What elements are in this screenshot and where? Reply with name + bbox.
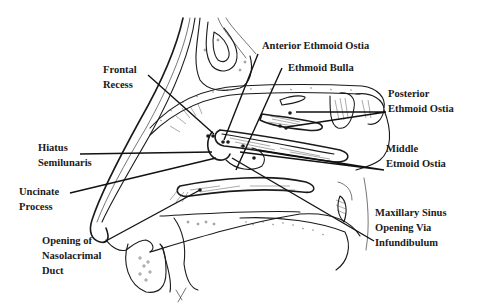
- label-uncinate-process: Uncinate Process: [19, 184, 59, 214]
- label-maxillary-sinus-opening: Maxillary Sinus Opening Via Infundibulum: [375, 205, 446, 250]
- superior-turbinate: [280, 96, 305, 105]
- alveolar-bone: [126, 218, 215, 302]
- sphenoid-region: [330, 93, 390, 170]
- maxillary-ostium: [336, 178, 368, 250]
- leader-hiatus-semilunaris: [80, 152, 212, 154]
- middle-turbinate: [260, 114, 322, 131]
- leader-nasolacrimal-duct: [104, 190, 200, 242]
- label-frontal-recess: Frontal Recess: [103, 62, 137, 92]
- inferior-turbinate: [177, 130, 348, 196]
- nasal-bone-outline: [90, 18, 195, 252]
- label-anterior-ethmoid-ostia: Anterior Ethmoid Ostia: [262, 38, 369, 53]
- nasal-anatomy-diagram: Anterior Ethmoid Ostia Ethmoid Bulla Fro…: [0, 0, 477, 305]
- leader-uncinate-process: [70, 158, 216, 193]
- label-posterior-ethmoid-ostia: Posterior Ethmoid Ostia: [388, 86, 454, 116]
- hard-palate: [150, 211, 360, 270]
- label-ethmoid-bulla: Ethmoid Bulla: [288, 60, 354, 75]
- label-middle-ethmoid-ostia: Middle Etmoid Ostia: [386, 141, 446, 171]
- leader-anterior-ethmoid-ostia: [224, 54, 258, 140]
- label-hiatus-semilunaris: Hiatus Semilunaris: [38, 140, 92, 170]
- label-nasolacrimal-duct: Opening of Nasolacrimal Duct: [42, 233, 102, 278]
